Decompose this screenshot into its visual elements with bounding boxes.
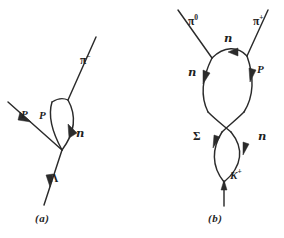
label-proton-in-a: P <box>21 107 28 120</box>
track-cross-right-b <box>222 112 244 132</box>
label-neutron-left-b: n <box>188 65 196 78</box>
track-neutron-left-b <box>203 58 212 112</box>
label-sigma-left-b: Σ <box>193 129 201 142</box>
label-neutron-top-b: n <box>224 31 232 44</box>
track-loop-proton-a <box>50 102 62 150</box>
caption-panel-a: (a) <box>35 213 49 224</box>
caption-panel-b: (b) <box>208 213 222 224</box>
label-pi-zero-b: π0 <box>188 14 198 27</box>
label-proton-right-b: P <box>257 62 264 75</box>
label-lambda-in-a: Λ <box>50 171 58 184</box>
label-pi-plus-b: π+ <box>253 14 264 27</box>
label-pi-minus-a: π− <box>80 53 91 66</box>
track-pi-minus-a <box>68 37 96 100</box>
arrow-k-plus-b <box>221 180 227 190</box>
arrow-neutron-left-b <box>203 70 210 84</box>
label-neutron-loop-a: n <box>76 126 84 139</box>
arrow-sigma-b <box>213 135 220 148</box>
track-proton-right-b <box>244 56 252 112</box>
figure-canvas: π− P P n Λ (a) π0 π+ n n P Σ n K+ (b) <box>0 0 284 238</box>
track-proton-a <box>8 102 62 150</box>
label-k-plus-b: K+ <box>230 168 242 181</box>
panel-b-strokes <box>178 10 268 206</box>
track-neutron-top-b <box>212 49 247 58</box>
track-vertex-arc-a <box>52 99 68 102</box>
track-cross-left-b <box>208 112 231 132</box>
label-neutron-right-b: n <box>258 129 266 142</box>
arrow-neutron-right-b <box>243 142 249 155</box>
label-proton-loop-a: P <box>39 108 46 121</box>
